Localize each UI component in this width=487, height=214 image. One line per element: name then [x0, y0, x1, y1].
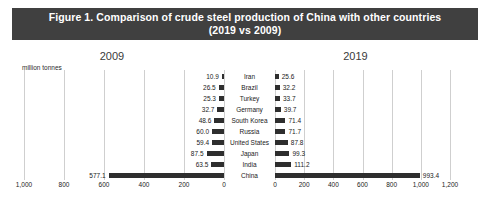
x-tick-left-200: 200 — [179, 181, 190, 188]
x-tick-left-0: 0 — [222, 181, 226, 188]
bar-2019-turkey — [275, 96, 280, 101]
bar-row-left-turkey: 25.3 — [24, 93, 224, 104]
country-label-south-korea: South Korea — [224, 116, 275, 125]
bar-2019-germany — [275, 107, 281, 112]
bar-2009-japan — [207, 151, 225, 156]
figure-container: Figure 1. Comparison of crude steel prod… — [0, 0, 487, 214]
bar-row-right-japan: 99.3 — [275, 148, 450, 159]
country-label-column: IranBrazilTurkeyGermanySouth KoreaRussia… — [224, 70, 275, 180]
value-label-2019-germany: 39.7 — [284, 105, 297, 114]
value-label-2009-india: 63.5 — [196, 160, 209, 169]
bar-row-left-iran: 10.9 — [24, 71, 224, 82]
bar-2019-brazil — [275, 85, 280, 90]
bar-row-left-brazil: 26.5 — [24, 82, 224, 93]
bar-2019-south-korea — [275, 118, 285, 123]
x-tick-right-1000: 1,000 — [413, 181, 429, 188]
bar-row-right-iran: 25.6 — [275, 71, 450, 82]
bar-row-left-south-korea: 48.6 — [24, 115, 224, 126]
value-label-2019-china: 993.4 — [423, 171, 439, 180]
bar-2009-united-states — [212, 140, 224, 145]
x-tick-right-1200: 1,200 — [442, 181, 458, 188]
bar-row-right-germany: 39.7 — [275, 104, 450, 115]
figure-title-line-1: Figure 1. Comparison of crude steel prod… — [49, 11, 442, 24]
value-label-2019-iran: 25.6 — [282, 72, 295, 81]
bar-row-right-brazil: 32.2 — [275, 82, 450, 93]
x-tick-right-400: 400 — [328, 181, 339, 188]
value-label-2009-united-states: 59.4 — [196, 138, 209, 147]
value-label-2019-united-states: 87.8 — [291, 138, 304, 147]
bar-row-right-south-korea: 71.4 — [275, 115, 450, 126]
gridline-right-1200 — [450, 70, 451, 180]
country-label-india: India — [224, 160, 275, 169]
bar-row-left-russia: 60.0 — [24, 126, 224, 137]
value-label-2019-brazil: 32.2 — [283, 83, 296, 92]
bar-row-left-germany: 32.7 — [24, 104, 224, 115]
bar-2019-india — [275, 162, 291, 167]
value-label-2009-turkey: 25.3 — [203, 94, 216, 103]
x-tick-right-600: 600 — [357, 181, 368, 188]
value-label-2009-germany: 32.7 — [202, 105, 215, 114]
right-chart-x-axis: 02004006008001,0001,200 — [260, 181, 487, 193]
right-panel-year-header: 2019 — [224, 50, 487, 62]
value-label-2009-south-korea: 48.6 — [199, 116, 212, 125]
left-chart-x-axis: 1,0008006004002000 — [0, 181, 240, 193]
bar-2019-united-states — [275, 140, 288, 145]
figure-title-bar: Figure 1. Comparison of crude steel prod… — [12, 8, 478, 40]
value-label-2009-japan: 87.5 — [191, 149, 204, 158]
value-label-2019-turkey: 33.7 — [283, 94, 296, 103]
bar-row-right-india: 111.2 — [275, 159, 450, 170]
right-chart-plot-area: 25.632.233.739.771.471.787.899.3111.2993… — [275, 70, 450, 180]
country-label-turkey: Turkey — [224, 94, 275, 103]
bar-row-right-china: 993.4 — [275, 170, 450, 181]
bar-row-right-turkey: 33.7 — [275, 93, 450, 104]
x-tick-left-400: 400 — [139, 181, 150, 188]
bar-2009-india — [211, 162, 224, 167]
country-label-iran: Iran — [224, 72, 275, 81]
bar-2009-south-korea — [214, 118, 224, 123]
bar-row-left-united-states: 59.4 — [24, 137, 224, 148]
country-label-brazil: Brazil — [224, 83, 275, 92]
value-label-2019-russia: 71.7 — [288, 127, 301, 136]
bar-row-left-japan: 87.5 — [24, 148, 224, 159]
x-tick-right-800: 800 — [386, 181, 397, 188]
bar-2009-russia — [212, 129, 224, 134]
figure-title-line-2: (2019 vs 2009) — [209, 24, 282, 37]
country-label-japan: Japan — [224, 149, 275, 158]
country-label-china: China — [224, 171, 275, 180]
value-label-2019-japan: 99.3 — [292, 149, 305, 158]
value-label-2009-china: 577.1 — [89, 171, 105, 180]
bar-2019-japan — [275, 151, 289, 156]
left-panel-year-header: 2009 — [0, 50, 224, 62]
value-label-2009-brazil: 26.5 — [203, 83, 216, 92]
x-tick-right-200: 200 — [299, 181, 310, 188]
bar-row-left-china: 577.1 — [24, 170, 224, 181]
bar-2009-china — [109, 173, 224, 178]
value-label-2019-india: 111.2 — [294, 160, 309, 169]
bar-row-right-united-states: 87.8 — [275, 137, 450, 148]
x-tick-left-1000: 1,000 — [16, 181, 32, 188]
x-tick-right-0: 0 — [273, 181, 277, 188]
bar-row-right-russia: 71.7 — [275, 126, 450, 137]
value-label-2009-iran: 10.9 — [206, 72, 219, 81]
left-chart-plot-area: 10.926.525.332.748.660.059.487.563.5577.… — [24, 70, 224, 180]
country-label-united-states: United States — [224, 138, 275, 147]
bar-2019-china — [275, 173, 420, 178]
x-tick-left-600: 600 — [99, 181, 110, 188]
bar-2019-russia — [275, 129, 285, 134]
country-label-germany: Germany — [224, 105, 275, 114]
country-label-russia: Russia — [224, 127, 275, 136]
bar-row-left-india: 63.5 — [24, 159, 224, 170]
bar-2019-iran — [275, 74, 279, 79]
x-tick-left-800: 800 — [59, 181, 70, 188]
value-label-2009-russia: 60.0 — [196, 127, 209, 136]
value-label-2019-south-korea: 71.4 — [288, 116, 301, 125]
